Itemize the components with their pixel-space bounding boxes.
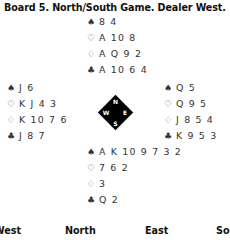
compass-rose: N E S W — [98, 95, 133, 130]
spade-icon: ♠ — [86, 145, 96, 159]
club-icon: ♣ — [86, 193, 96, 207]
compass-north-label: N — [112, 98, 120, 105]
diamond-icon: ♢ — [86, 177, 96, 191]
compass-south-label: S — [112, 120, 120, 127]
bidding-header-east: East — [145, 225, 168, 236]
heart-icon: ♡ — [86, 31, 96, 45]
board-title: Board 5. North/South Game. Dealer West. — [0, 2, 230, 13]
heart-icon: ♡ — [86, 161, 96, 175]
spade-icon: ♠ — [163, 81, 173, 95]
spade-icon: ♠ — [6, 81, 16, 95]
club-icon: ♣ — [86, 63, 96, 77]
club-icon: ♣ — [6, 129, 16, 143]
diamond-icon: ♢ — [163, 113, 173, 127]
compass-east-label: E — [121, 109, 129, 116]
bidding-header-west: West — [0, 225, 21, 236]
bidding-header-north: North — [65, 225, 96, 236]
heart-icon: ♡ — [163, 97, 173, 111]
diamond-icon: ♢ — [6, 113, 16, 127]
heart-icon: ♡ — [6, 97, 16, 111]
spade-icon: ♠ — [86, 15, 96, 29]
compass-west-label: W — [102, 109, 110, 116]
diamond-icon: ♢ — [86, 47, 96, 61]
bidding-header-south: South — [216, 225, 230, 236]
club-icon: ♣ — [163, 129, 173, 143]
